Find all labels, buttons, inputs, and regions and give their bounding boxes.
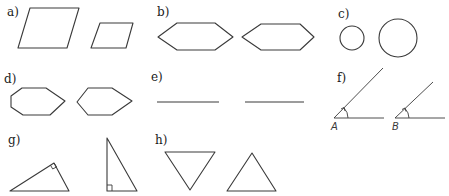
geometry-figure bbox=[0, 0, 449, 196]
part-label-f: f) bbox=[337, 72, 346, 84]
part-c-shapes bbox=[340, 19, 417, 57]
part-label-c: c) bbox=[338, 8, 349, 20]
right-triangle-left bbox=[10, 163, 69, 191]
part-b-shapes bbox=[158, 23, 314, 50]
circle-large bbox=[379, 19, 417, 57]
part-h-shapes bbox=[165, 152, 276, 191]
part-label-d: d) bbox=[4, 73, 16, 85]
part-label-b: b) bbox=[157, 6, 169, 18]
circle-small bbox=[340, 26, 364, 50]
right-angle-mark-icon bbox=[107, 185, 112, 191]
part-label-h: h) bbox=[155, 134, 167, 146]
hexagon bbox=[77, 88, 132, 115]
parallelogram-large bbox=[18, 8, 79, 48]
part-a-shapes bbox=[18, 8, 133, 48]
angle-b bbox=[395, 82, 445, 118]
vertex-label-a: A bbox=[331, 122, 338, 132]
hexagon-right bbox=[242, 24, 314, 50]
part-f-shapes bbox=[334, 68, 445, 118]
part-g-shapes bbox=[10, 138, 137, 191]
part-label-e: e) bbox=[151, 71, 163, 83]
part-label-g: g) bbox=[8, 134, 20, 146]
part-label-a: a) bbox=[7, 6, 19, 18]
right-triangle-right bbox=[107, 138, 137, 191]
hexagon-left bbox=[158, 23, 233, 50]
heptagon bbox=[11, 88, 65, 115]
parallelogram-small bbox=[91, 23, 133, 48]
triangle-upright bbox=[227, 153, 276, 191]
vertex-label-b: B bbox=[392, 122, 399, 132]
triangle-inverted bbox=[165, 152, 215, 190]
part-d-shapes bbox=[11, 88, 132, 115]
